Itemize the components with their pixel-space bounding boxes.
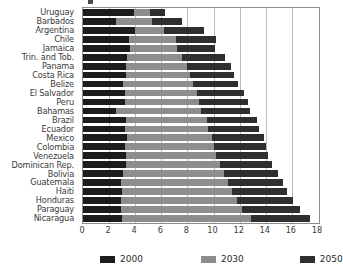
bar-2000 [83, 90, 125, 97]
x-axis-tick: 14 [260, 226, 270, 234]
bar-row [83, 187, 319, 196]
bar-row [83, 106, 319, 115]
bar-row [83, 160, 319, 169]
bar-2000 [83, 134, 127, 141]
legend-swatch-icon [100, 256, 115, 263]
bar-row [83, 44, 319, 53]
bar-row [83, 8, 319, 17]
x-axis-tick: 16 [286, 226, 296, 234]
x-axis-tick: 12 [233, 226, 243, 234]
bar-2000 [83, 99, 125, 106]
bar-2000 [83, 18, 116, 25]
bar-row [83, 89, 319, 98]
bar-2000 [83, 179, 121, 186]
x-axis-tick: 8 [184, 226, 189, 234]
bar-2000 [83, 126, 125, 133]
legend-label: 2000 [120, 255, 143, 264]
bar-row [83, 17, 319, 26]
bar-row [83, 62, 319, 71]
x-axis-tick: 6 [158, 226, 163, 234]
legend-swatch-icon [300, 256, 315, 263]
bar-rows [83, 8, 319, 223]
bar-2000 [83, 206, 121, 213]
bar-row [83, 26, 319, 35]
legend-label: 2050 [320, 255, 343, 264]
bar-row [83, 115, 319, 124]
y-axis-label: Colombia [0, 142, 78, 151]
bar-2000 [83, 170, 123, 177]
bar-row [83, 133, 319, 142]
bar-2000 [83, 152, 126, 159]
bar-2000 [83, 54, 127, 61]
bar-2000 [83, 36, 129, 43]
plot-area [82, 7, 320, 224]
bar-row [83, 124, 319, 133]
y-axis-label: Mexico [0, 133, 78, 142]
y-axis-label: Nicaragua [0, 214, 78, 223]
bar-2000 [83, 27, 135, 34]
x-axis-tick: 10 [207, 226, 217, 234]
bar-2000 [83, 188, 122, 195]
y-axis-label: Venezuela [0, 151, 78, 160]
bar-2000 [83, 143, 125, 150]
legend-swatch-icon [201, 256, 216, 263]
y-axis-label: Dominican Rep. [0, 160, 78, 169]
x-axis-tick: 0 [79, 226, 84, 234]
legend-item-2000[interactable]: 2000 [100, 255, 143, 264]
bar-2000 [83, 45, 130, 52]
bar-2000 [83, 63, 126, 70]
bar-row [83, 142, 319, 151]
bar-2000 [83, 9, 134, 16]
x-axis-tick-labels: 024681012141618 [82, 226, 320, 240]
y-axis-label: Ecuador [0, 124, 78, 133]
bar-2000 [83, 117, 126, 124]
legend-item-2030[interactable]: 2030 [201, 255, 244, 264]
bar-2000 [83, 72, 126, 79]
bar-row [83, 169, 319, 178]
chart-legend: 200020302050 [86, 252, 326, 266]
legend-label: 2030 [221, 255, 244, 264]
x-axis-tick: 4 [132, 226, 137, 234]
bar-2000 [83, 161, 126, 168]
x-axis-tick: 18 [312, 226, 322, 234]
x-axis-tick: 2 [106, 226, 111, 234]
bar-2000 [83, 215, 122, 222]
bar-row [83, 80, 319, 89]
bar-row [83, 214, 319, 223]
bar-row [83, 98, 319, 107]
bar-row [83, 35, 319, 44]
legend-item-2050[interactable]: 2050 [300, 255, 343, 264]
bar-row [83, 196, 319, 205]
bar-row [83, 151, 319, 160]
bar-row [83, 205, 319, 214]
bar-row [83, 178, 319, 187]
y-axis-category-labels: UruguayBarbadosArgentinaChileJamaicaTrin… [0, 8, 78, 223]
top-clipped-artifact [88, 0, 93, 4]
bar-row [83, 53, 319, 62]
bar-2000 [83, 197, 121, 204]
bar-2000 [83, 81, 123, 88]
bar-2000 [83, 108, 116, 115]
bar-row [83, 71, 319, 80]
